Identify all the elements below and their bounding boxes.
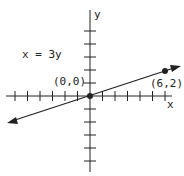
x-axis-label: x	[167, 98, 174, 111]
graph-line	[12, 68, 174, 121]
point-label-origin: (0,0)	[53, 75, 86, 88]
equation-label: x = 3y	[22, 48, 62, 61]
point-6-2	[162, 68, 168, 74]
point-label-6-2: (6,2)	[150, 77, 183, 90]
arrow-head-left-icon	[7, 117, 18, 124]
coordinate-plane: y x x = 3y (0,0) (6,2)	[0, 0, 184, 176]
arrow-head-right-icon	[170, 65, 181, 72]
point-origin	[87, 93, 93, 99]
y-axis-label: y	[94, 8, 101, 21]
